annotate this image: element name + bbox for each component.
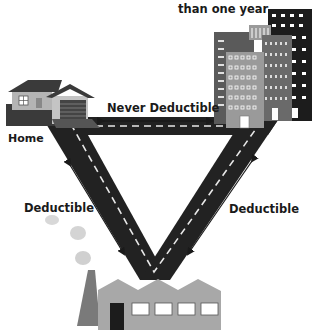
road-right xyxy=(140,117,280,280)
factory-window xyxy=(178,303,195,315)
factory-door xyxy=(110,303,124,330)
smoke-puff xyxy=(70,226,86,240)
house-icon xyxy=(6,80,100,128)
factory-window xyxy=(132,303,149,315)
right-deductible-label: Deductible xyxy=(229,202,299,216)
factory-window xyxy=(201,303,218,315)
smoke-puff xyxy=(75,251,91,265)
never-deductible-label: Never Deductible xyxy=(107,101,220,115)
smoke-puff xyxy=(45,215,59,225)
top-caption: than one year xyxy=(178,2,269,16)
chimney xyxy=(77,270,100,326)
office-buildings-icon xyxy=(214,9,312,128)
factory-window xyxy=(155,303,172,315)
home-label: Home xyxy=(8,132,44,145)
road-left xyxy=(42,117,168,280)
left-deductible-label: Deductible xyxy=(24,201,94,215)
commute-deductibility-diagram: than one year Home xyxy=(0,0,318,330)
